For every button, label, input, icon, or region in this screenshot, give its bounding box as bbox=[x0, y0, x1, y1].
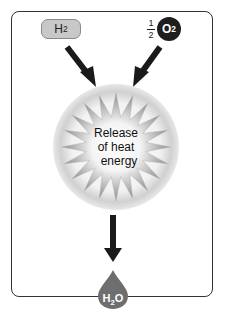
product-h2o: H2O bbox=[98, 292, 128, 307]
arrow-to-water bbox=[104, 215, 122, 262]
o2-subscript: 2 bbox=[171, 24, 176, 34]
o2-label: O bbox=[162, 22, 171, 36]
label-line-3: energy bbox=[80, 154, 152, 168]
heat-release-label: Release of heat energy bbox=[80, 126, 152, 168]
h2o-label: H bbox=[103, 292, 111, 304]
h2o-suffix: O bbox=[115, 292, 124, 304]
coefficient-numerator: 1 bbox=[146, 19, 156, 28]
o2-coefficient: 1 2 bbox=[146, 19, 156, 40]
h2-label: H bbox=[54, 22, 63, 36]
h2-subscript: 2 bbox=[63, 24, 68, 34]
reactant-o2: O2 bbox=[157, 17, 181, 41]
arrow-o2-to-reaction bbox=[133, 47, 160, 87]
label-line-1: Release bbox=[80, 126, 152, 140]
reactant-h2: H2 bbox=[41, 19, 81, 39]
label-line-2: of heat bbox=[80, 140, 152, 154]
coefficient-denominator: 2 bbox=[146, 31, 156, 40]
arrow-h2-to-reaction bbox=[67, 47, 96, 87]
